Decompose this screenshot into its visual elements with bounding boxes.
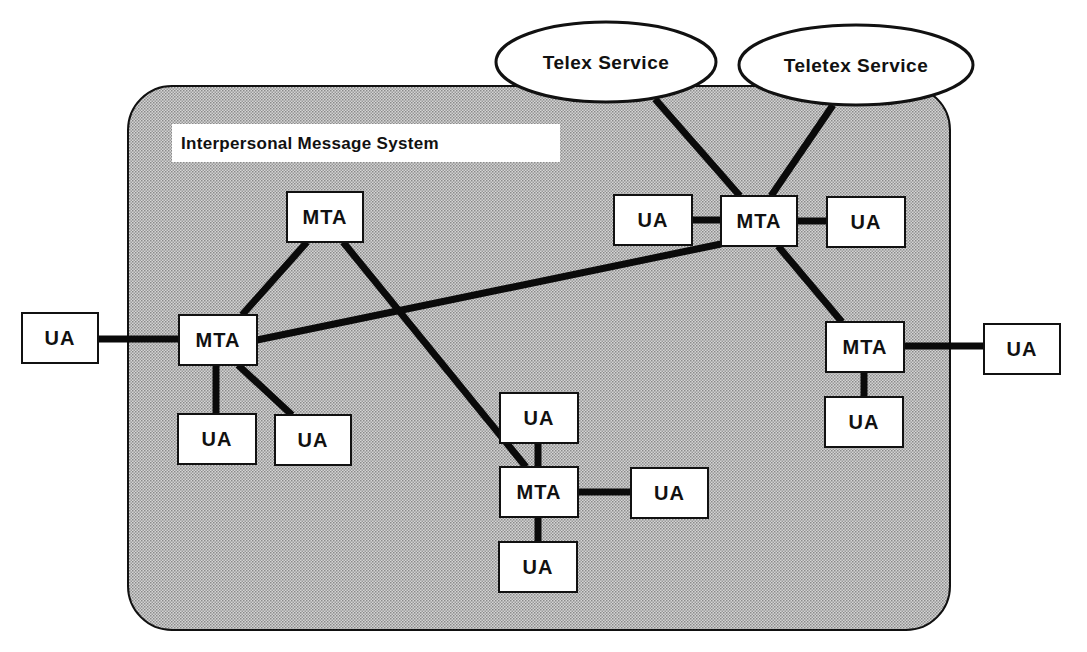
node-label: UA xyxy=(849,411,880,433)
node-label: UA xyxy=(298,429,329,451)
ua-node-ua_ur_right[interactable]: UA xyxy=(827,197,905,247)
node-label: UA xyxy=(202,428,233,450)
mta-node-mta_left[interactable]: MTA xyxy=(179,315,257,365)
service-telex[interactable]: Telex Service xyxy=(496,22,716,102)
ua-node-ua_far_right[interactable]: UA xyxy=(984,324,1060,374)
service-label: Telex Service xyxy=(543,52,670,73)
ua-node-ua_bottom_top[interactable]: UA xyxy=(500,393,578,443)
ua-node-ua_ur_left[interactable]: UA xyxy=(614,195,692,245)
mta-node-mta_right[interactable]: MTA xyxy=(826,322,904,372)
node-label: MTA xyxy=(196,329,241,351)
node-label: UA xyxy=(851,211,882,233)
mta-node-mta_upper_right[interactable]: MTA xyxy=(721,196,797,246)
mta-node-mta_bottom[interactable]: MTA xyxy=(500,467,578,517)
node-label: UA xyxy=(654,482,685,504)
service-teletex[interactable]: Teletex Service xyxy=(739,25,973,105)
node-label: UA xyxy=(1007,338,1038,360)
ua-node-ua_bottom_below[interactable]: UA xyxy=(499,542,577,592)
ua-node-ua_far_left[interactable]: UA xyxy=(22,313,98,363)
ua-node-ua_left_1[interactable]: UA xyxy=(178,414,256,464)
message-system-diagram: Interpersonal Message System Telex Servi… xyxy=(0,0,1087,652)
service-label: Teletex Service xyxy=(784,55,928,76)
node-label: MTA xyxy=(737,210,782,232)
mta-node-mta_top[interactable]: MTA xyxy=(287,192,363,242)
node-label: UA xyxy=(523,556,554,578)
ua-node-ua_left_2[interactable]: UA xyxy=(275,415,351,465)
node-label: MTA xyxy=(843,336,888,358)
node-label: UA xyxy=(45,327,76,349)
system-label: Interpersonal Message System xyxy=(181,134,439,153)
ua-node-ua_bottom_right[interactable]: UA xyxy=(631,468,708,518)
node-label: UA xyxy=(638,209,669,231)
node-label: MTA xyxy=(517,481,562,503)
node-label: MTA xyxy=(303,206,348,228)
node-label: UA xyxy=(524,407,555,429)
ua-node-ua_right_below[interactable]: UA xyxy=(825,397,903,447)
